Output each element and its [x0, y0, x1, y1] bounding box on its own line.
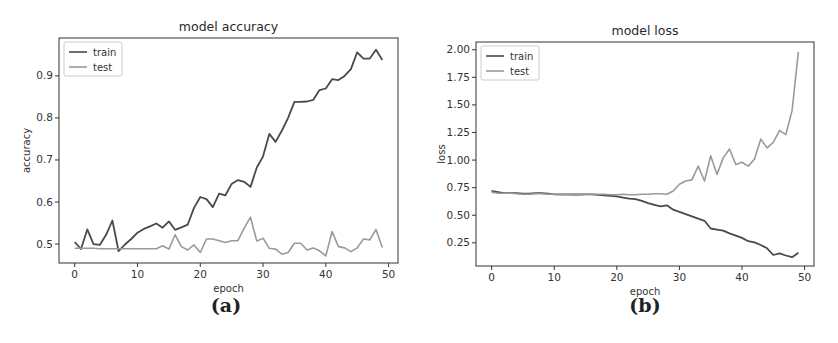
loss-y-tick-label: 1.00: [447, 154, 470, 166]
accuracy-y-axis-label: accuracy: [21, 128, 32, 173]
figure-caption-b: (b): [615, 294, 675, 316]
figure-caption-a: (a): [196, 294, 256, 316]
accuracy-x-tick-label: 30: [256, 268, 269, 280]
loss-y-tick-label: 0.25: [447, 236, 470, 248]
accuracy-chart-panel: model accuracy010203040500.50.60.70.80.9…: [0, 0, 419, 343]
accuracy-legend-label-test: test: [93, 62, 112, 73]
loss-x-tick-label: 50: [798, 271, 811, 283]
loss-legend: traintest: [481, 46, 539, 80]
loss-x-tick-label: 40: [735, 271, 748, 283]
loss-chart: model loss010203040500.250.500.751.001.2…: [419, 0, 838, 343]
loss-y-tick-label: 1.25: [447, 126, 470, 138]
accuracy-x-axis-label: epoch: [213, 283, 243, 294]
loss-y-tick-label: 0.75: [447, 181, 470, 193]
accuracy-y-tick-label: 0.6: [36, 196, 53, 208]
accuracy-legend-label-train: train: [93, 47, 116, 58]
accuracy-chart: model accuracy010203040500.50.60.70.80.9…: [0, 0, 419, 343]
loss-legend-label-test: test: [510, 66, 529, 77]
loss-chart-panel: model loss010203040500.250.500.751.001.2…: [419, 0, 838, 343]
accuracy-x-tick-label: 20: [194, 268, 207, 280]
loss-x-tick-label: 30: [673, 271, 686, 283]
accuracy-legend: traintest: [64, 42, 122, 76]
loss-y-tick-label: 0.50: [447, 209, 470, 221]
accuracy-train-line: [75, 50, 383, 251]
loss-x-tick-label: 0: [488, 271, 495, 283]
loss-chart-title: model loss: [611, 23, 678, 38]
loss-train-line: [492, 191, 799, 257]
accuracy-y-tick-label: 0.8: [36, 111, 53, 123]
loss-y-tick-label: 2.00: [447, 43, 470, 55]
accuracy-chart-title: model accuracy: [179, 19, 279, 34]
accuracy-y-tick-label: 0.9: [36, 69, 53, 81]
loss-y-tick-label: 1.50: [447, 98, 470, 110]
loss-x-tick-label: 20: [610, 271, 623, 283]
accuracy-y-tick-label: 0.7: [36, 153, 53, 165]
accuracy-x-tick-label: 40: [319, 268, 332, 280]
accuracy-x-tick-label: 0: [71, 268, 78, 280]
accuracy-x-tick-label: 50: [382, 268, 395, 280]
loss-x-tick-label: 10: [548, 271, 561, 283]
loss-y-tick-label: 1.75: [447, 71, 470, 83]
loss-y-axis-label: loss: [436, 144, 447, 163]
accuracy-x-tick-label: 10: [131, 268, 144, 280]
loss-legend-label-train: train: [510, 51, 533, 62]
accuracy-y-tick-label: 0.5: [36, 238, 53, 250]
